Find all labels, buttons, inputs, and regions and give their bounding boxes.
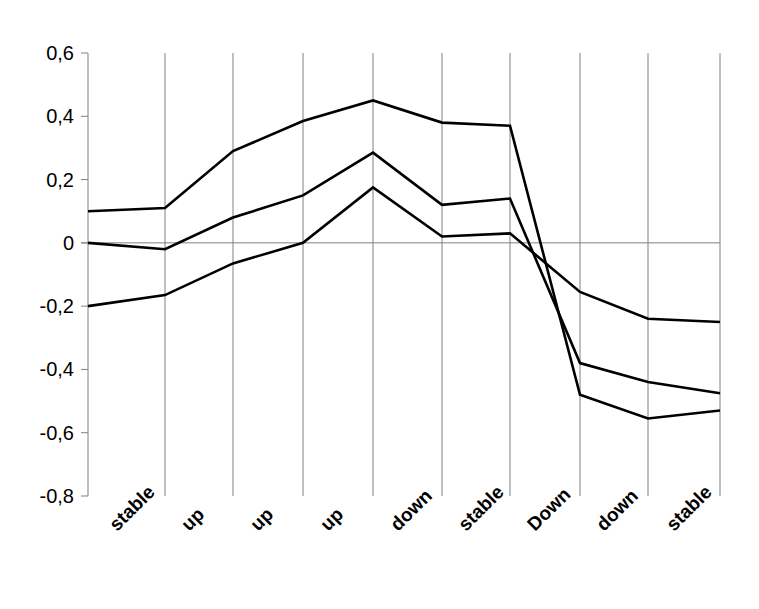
y-tick-label-0: 0,6 [0,42,74,65]
y-tick-label-7: -0,8 [0,485,74,508]
data-series-line-2 [88,153,720,393]
y-tick-label-5: -0,4 [0,358,74,381]
y-tick-label-1: 0,4 [0,105,74,128]
y-tick-label-2: 0,2 [0,168,74,191]
y-tick-label-4: -0,2 [0,295,74,318]
y-tick-label-3: 0 [0,231,74,254]
data-series-line-1 [88,100,720,418]
y-tick-label-6: -0,6 [0,421,74,444]
chart-container: 0,60,40,20-0,2-0,4-0,6-0,8 stableupupupd… [0,0,759,609]
data-series-line-3 [88,187,720,321]
